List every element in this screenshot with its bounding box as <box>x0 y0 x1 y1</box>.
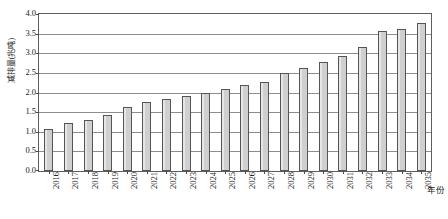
bar <box>84 120 93 171</box>
x-axis-tick-label: 2030 <box>326 172 335 208</box>
x-axis-tick-labels: 2016201720182019202020212022202320242025… <box>38 172 432 219</box>
gridline <box>39 53 431 54</box>
y-axis-tick-mark <box>36 132 39 133</box>
bar <box>142 102 151 171</box>
y-axis-tick-mark <box>36 73 39 74</box>
x-axis-tick-label: 2022 <box>169 172 178 208</box>
x-axis-tick-label: 2023 <box>189 172 198 208</box>
x-axis-tick-label: 2025 <box>228 172 237 208</box>
y-axis-tick-label: 0.5 <box>12 146 36 155</box>
y-axis-tick-mark <box>36 112 39 113</box>
y-axis-tick-label: 4.0 <box>12 9 36 18</box>
bar <box>162 99 171 171</box>
bar <box>397 29 406 171</box>
y-axis-tick-label: 2.5 <box>12 68 36 77</box>
gridline <box>39 73 431 74</box>
y-axis-tick-label: 1.5 <box>12 107 36 116</box>
bar <box>299 68 308 171</box>
y-axis-tick-mark <box>36 14 39 15</box>
x-axis-tick-label: 2034 <box>405 172 414 208</box>
x-axis-tick-label: 2028 <box>287 172 296 208</box>
y-axis-tick-mark <box>36 34 39 35</box>
gridline <box>39 151 431 152</box>
y-axis-tick-label: 3.5 <box>12 29 36 38</box>
gridline <box>39 112 431 113</box>
y-axis-tick-mark <box>36 170 39 171</box>
x-axis-tick-label: 2024 <box>209 172 218 208</box>
bar-chart: 减排量(兆吨) 0.00.51.01.52.02.53.03.54.0 2016… <box>0 0 448 219</box>
bar <box>64 123 73 171</box>
x-axis-tick-label: 2027 <box>267 172 276 208</box>
bar <box>319 62 328 172</box>
gridline <box>39 34 431 35</box>
x-axis-tick-label: 2018 <box>91 172 100 208</box>
x-axis-title: 年份 <box>427 186 445 195</box>
y-axis-tick-label: 2.0 <box>12 88 36 97</box>
y-axis-tick-mark <box>36 93 39 94</box>
x-axis-tick-label: 2026 <box>248 172 257 208</box>
x-axis-tick-label: 2031 <box>346 172 355 208</box>
gridline <box>39 132 431 133</box>
x-axis-tick-label: 2021 <box>150 172 159 208</box>
y-axis-tick-mark <box>36 53 39 54</box>
bar <box>182 96 191 171</box>
bar <box>103 115 112 171</box>
x-axis-tick-label: 2029 <box>307 172 316 208</box>
bar <box>201 93 210 172</box>
y-axis-tick-label: 3.0 <box>12 48 36 57</box>
y-axis-tick-labels: 0.00.51.01.52.02.53.03.54.0 <box>12 0 36 219</box>
gridline <box>39 93 431 94</box>
x-axis-tick-label: 2016 <box>52 172 61 208</box>
bar <box>378 31 387 172</box>
x-axis-tick-label: 2032 <box>365 172 374 208</box>
bar <box>260 82 269 171</box>
bar <box>338 56 347 171</box>
y-axis-tick-mark <box>36 151 39 152</box>
x-axis-tick-label: 2033 <box>385 172 394 208</box>
x-axis-tick-label: 2020 <box>130 172 139 208</box>
bar <box>221 89 230 171</box>
y-axis-tick-label: 1.0 <box>12 127 36 136</box>
bar <box>358 47 367 171</box>
bar <box>44 129 53 171</box>
y-axis-tick-label: 0.0 <box>12 166 36 175</box>
bar <box>417 23 426 171</box>
bar <box>280 73 289 171</box>
bar <box>240 85 249 171</box>
bar <box>123 107 132 171</box>
plot-area <box>38 13 432 172</box>
x-axis-tick-label: 2019 <box>111 172 120 208</box>
x-axis-tick-label: 2017 <box>71 172 80 208</box>
